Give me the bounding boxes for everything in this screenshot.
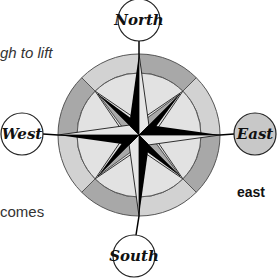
north-label-badge[interactable]: North [113, 0, 163, 41]
east-label: East [236, 125, 274, 143]
east-connector [220, 134, 234, 135]
compass-rose: North West East South [0, 0, 279, 279]
south-label-badge[interactable]: South [109, 235, 159, 277]
south-connector [136, 216, 139, 235]
west-label-badge[interactable]: West [1, 113, 43, 155]
north-label: North [113, 11, 163, 29]
east-caption: east [237, 184, 265, 200]
west-label: West [2, 125, 43, 143]
south-label: South [109, 247, 159, 265]
west-connector [43, 134, 58, 135]
east-label-badge[interactable]: East [234, 113, 276, 155]
